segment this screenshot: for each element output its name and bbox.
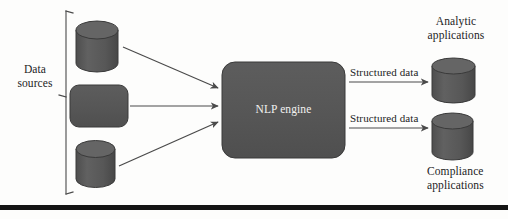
nlp-engine-label: NLP engine [222,102,345,116]
structured-data-label-bottom: Structured data [350,112,418,126]
compliance-applications-cylinder [432,113,473,160]
edge-source-top-to-engine [123,47,218,88]
analytic-applications-label: Analytic applications [408,14,504,43]
data-sources-label: Data sources [6,62,64,91]
analytic-applications-cylinder [432,58,475,103]
structured-data-label-top: Structured data [350,66,418,80]
edge-source-bottom-to-engine [119,122,218,166]
footer-rule [0,205,508,210]
source-database-bottom [76,141,115,188]
source-database-top [76,21,118,72]
source-store-middle [70,85,128,127]
compliance-applications-label: Compliance applications [427,164,507,193]
diagram-figure: Data sources NLP engine Structured data … [0,0,508,219]
